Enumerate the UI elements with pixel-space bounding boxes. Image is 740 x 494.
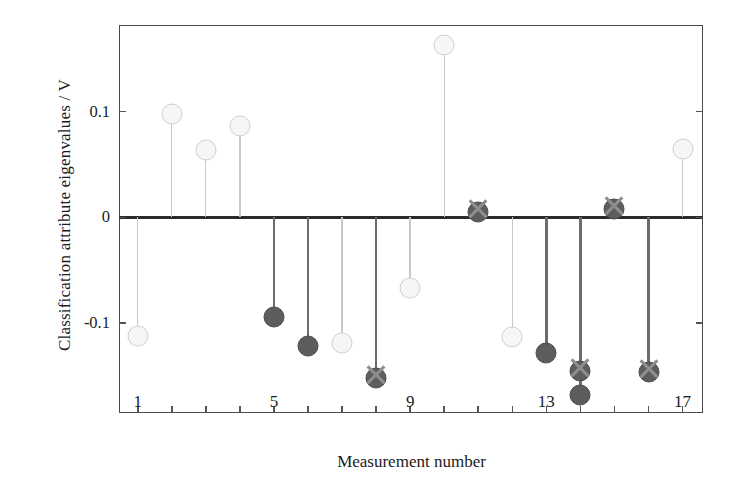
data-point-marker[interactable]: [604, 198, 625, 219]
stem-line: [375, 217, 378, 378]
x-tick-mark: [477, 406, 479, 413]
y-tick-mark: [696, 111, 703, 113]
stem-line: [273, 217, 276, 316]
y-tick-mark: [696, 322, 703, 324]
x-tick-mark: [443, 406, 445, 413]
x-tick-mark: [239, 406, 241, 413]
x-tick-mark: [512, 406, 514, 413]
y-tick-label: 0.1: [89, 102, 110, 122]
y-tick-mark: [696, 217, 703, 219]
data-point-marker[interactable]: [570, 385, 591, 406]
x-tick-mark: [614, 406, 616, 413]
stem-line: [341, 217, 342, 343]
y-axis-label: Classification attribute eigenvalues / V: [55, 55, 75, 375]
stem-line: [545, 217, 548, 352]
data-point-marker[interactable]: [536, 342, 557, 363]
x-tick-mark: [341, 406, 343, 413]
data-point-marker[interactable]: [434, 35, 455, 56]
plot-area: 0.10-0.1: [119, 25, 703, 413]
data-point-marker[interactable]: [570, 360, 591, 381]
x-tick-mark: [205, 406, 207, 413]
x-tick-label: 1: [133, 392, 142, 412]
data-point-marker[interactable]: [229, 116, 250, 137]
data-point-marker[interactable]: [127, 325, 148, 346]
data-point-marker[interactable]: [672, 138, 693, 159]
data-point-marker[interactable]: [263, 306, 284, 327]
data-point-marker[interactable]: [366, 368, 387, 389]
data-point-marker[interactable]: [468, 202, 489, 223]
data-point-marker[interactable]: [195, 139, 216, 160]
data-point-marker[interactable]: [400, 278, 421, 299]
stem-line: [239, 126, 240, 217]
y-tick-mark: [119, 217, 126, 219]
stem-line: [137, 217, 138, 335]
y-tick-mark: [119, 111, 126, 113]
stem-line: [444, 45, 445, 217]
data-point-marker[interactable]: [297, 336, 318, 357]
x-tick-label: 9: [406, 392, 415, 412]
x-tick-label: 5: [270, 392, 279, 412]
data-point-marker[interactable]: [502, 326, 523, 347]
data-point-marker[interactable]: [332, 333, 353, 354]
stem-line: [171, 114, 172, 218]
y-tick-mark: [119, 322, 126, 324]
x-tick-label: 17: [674, 392, 691, 412]
stem-line: [647, 217, 650, 371]
data-point-marker[interactable]: [161, 103, 182, 124]
stem-line: [307, 217, 310, 346]
y-tick-label: -0.1: [84, 313, 110, 333]
chart-figure: Classification attribute eigenvalues / V…: [0, 0, 740, 494]
x-tick-mark: [648, 406, 650, 413]
x-tick-mark: [580, 406, 582, 413]
data-point-marker[interactable]: [638, 361, 659, 382]
x-axis-label: Measurement number: [119, 452, 704, 472]
stem-line: [512, 217, 513, 336]
x-tick-mark: [171, 406, 173, 413]
x-tick-mark: [307, 406, 309, 413]
x-tick-label: 13: [538, 392, 555, 412]
x-tick-mark: [375, 406, 377, 413]
y-tick-label: 0: [102, 207, 110, 227]
